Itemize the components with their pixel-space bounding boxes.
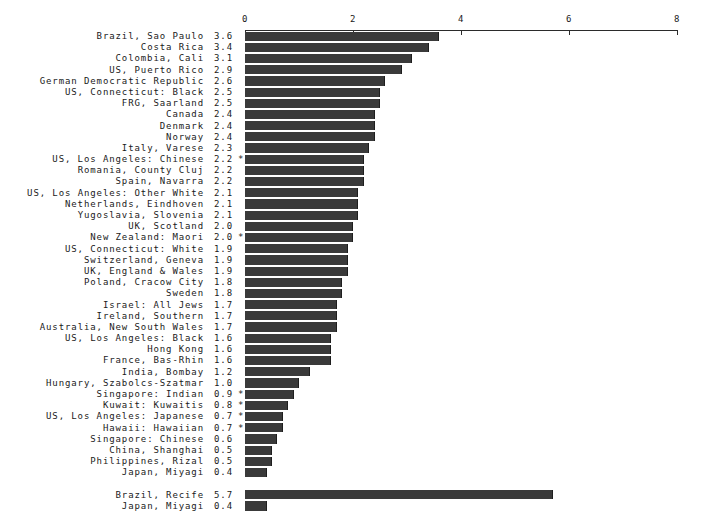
row-label: Canada — [166, 109, 204, 120]
bar-row: US, Connecticut: Black2.5 — [0, 87, 718, 98]
row-label: Italy, Varese — [122, 143, 204, 154]
axis-tick-label: 4 — [458, 14, 464, 24]
bar-row: UK, England & Wales1.9 — [0, 266, 718, 277]
row-value: 3.6 — [203, 31, 233, 42]
bar — [245, 88, 380, 97]
bar-row: Japan, Miyagi0.4 — [0, 467, 718, 478]
row-value: 1.0 — [203, 378, 233, 389]
row-value: 1.8 — [203, 288, 233, 299]
bar-track — [245, 98, 715, 109]
row-label: France, Bas-Rhin — [103, 355, 204, 366]
bar — [245, 434, 277, 443]
row-label: Hungary, Szabolcs-Szatmar — [46, 378, 204, 389]
row-value: 1.9 — [203, 255, 233, 266]
bar — [245, 300, 337, 309]
axis-tick-label: 0 — [242, 14, 248, 24]
row-label: Ireland, Southern — [97, 311, 204, 322]
bar-row: Denmark2.4 — [0, 121, 718, 132]
bar — [245, 32, 439, 41]
bar-row: Sweden1.8 — [0, 288, 718, 299]
bar — [245, 501, 267, 510]
bar — [245, 267, 348, 276]
bar — [245, 401, 288, 410]
bar — [245, 54, 412, 63]
bar — [245, 43, 429, 52]
bar-row: Colombia, Cali3.1 — [0, 53, 718, 64]
bar-track — [245, 31, 715, 42]
bar — [245, 110, 375, 119]
row-value: 1.6 — [203, 333, 233, 344]
bar-track — [245, 344, 715, 355]
bar-track — [245, 65, 715, 76]
bar-track — [245, 467, 715, 478]
bar-track — [245, 244, 715, 255]
bar-track — [245, 165, 715, 176]
row-value: 1.8 — [203, 277, 233, 288]
asterisk-marker: * — [238, 411, 243, 422]
row-value: 2.1 — [203, 210, 233, 221]
bar-row: US, Los Angeles: Chinese2.2* — [0, 154, 718, 165]
asterisk-marker: * — [238, 423, 243, 434]
row-label: US, Los Angeles: Black — [65, 333, 204, 344]
bar — [245, 311, 337, 320]
row-label: US, Los Angeles: Chinese — [52, 154, 204, 165]
row-value: 0.4 — [203, 467, 233, 478]
row-label: US, Connecticut: Black — [65, 87, 204, 98]
bar-track — [245, 121, 715, 132]
bar-track — [245, 456, 715, 467]
bar — [245, 457, 272, 466]
bar-row: Poland, Cracow City1.8 — [0, 277, 718, 288]
bar-row: US, Los Angeles: Other White2.1 — [0, 188, 718, 199]
bar-row: US, Connecticut: White1.9 — [0, 244, 718, 255]
bar-track — [245, 53, 715, 64]
bar — [245, 166, 364, 175]
row-value: 1.6 — [203, 355, 233, 366]
bar — [245, 322, 337, 331]
bar-track — [245, 411, 715, 422]
row-label: Costa Rica — [141, 42, 204, 53]
bar-track — [245, 501, 715, 512]
row-value: 1.6 — [203, 344, 233, 355]
bar — [245, 423, 283, 432]
bar-track — [245, 322, 715, 333]
row-value: 1.7 — [203, 322, 233, 333]
row-label: New Zealand: Maori — [90, 232, 204, 243]
row-label: China, Shanghai — [109, 445, 204, 456]
bar-track — [245, 232, 715, 243]
bar — [245, 356, 331, 365]
row-label: Japan, Miyagi — [122, 501, 204, 512]
row-value: 0.9 — [203, 389, 233, 400]
bar-row: Philippines, Rizal0.5 — [0, 456, 718, 467]
bar-row: Norway2.4 — [0, 132, 718, 143]
row-value: 2.3 — [203, 143, 233, 154]
bar-row: Canada2.4 — [0, 109, 718, 120]
bar-row: German Democratic Republic2.6 — [0, 76, 718, 87]
bar — [245, 412, 283, 421]
row-value: 2.0 — [203, 221, 233, 232]
row-label: Sweden — [166, 288, 204, 299]
row-label: Israel: All Jews — [103, 300, 204, 311]
row-label: Switzerland, Geneva — [84, 255, 204, 266]
bar-row: Italy, Varese2.3 — [0, 143, 718, 154]
bar-track — [245, 199, 715, 210]
bar — [245, 99, 380, 108]
bar-track — [245, 221, 715, 232]
bar — [245, 65, 402, 74]
bar-row: US, Puerto Rico2.9 — [0, 65, 718, 76]
row-label: Kuwait: Kuwaitis — [103, 400, 204, 411]
axis-tick-label: 6 — [566, 14, 572, 24]
row-value: 2.1 — [203, 199, 233, 210]
bar — [245, 211, 358, 220]
bar — [245, 468, 267, 477]
bar-track — [245, 143, 715, 154]
row-value: 3.1 — [203, 53, 233, 64]
row-value: 1.9 — [203, 266, 233, 277]
bar — [245, 278, 342, 287]
row-value: 1.2 — [203, 367, 233, 378]
row-label: Netherlands, Eindhoven — [65, 199, 204, 210]
bar-track — [245, 490, 715, 501]
bar-row: Brazil, Sao Paulo3.6 — [0, 31, 718, 42]
row-value: 2.1 — [203, 188, 233, 199]
asterisk-marker: * — [238, 154, 243, 165]
bar — [245, 390, 294, 399]
